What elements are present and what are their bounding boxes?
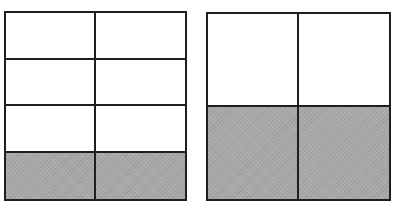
empty-cell bbox=[6, 13, 96, 60]
empty-cell bbox=[299, 14, 390, 107]
shaded-cell bbox=[96, 153, 186, 200]
shaded-cell bbox=[6, 153, 96, 200]
shaded-cell bbox=[208, 107, 299, 200]
empty-cell bbox=[96, 106, 186, 153]
empty-cell bbox=[6, 60, 96, 107]
empty-cell bbox=[6, 106, 96, 153]
fraction-grid-right bbox=[206, 12, 391, 201]
empty-cell bbox=[96, 60, 186, 107]
empty-cell bbox=[208, 14, 299, 107]
empty-cell bbox=[96, 13, 186, 60]
shaded-cell bbox=[299, 107, 390, 200]
fraction-grid-left bbox=[4, 11, 187, 201]
